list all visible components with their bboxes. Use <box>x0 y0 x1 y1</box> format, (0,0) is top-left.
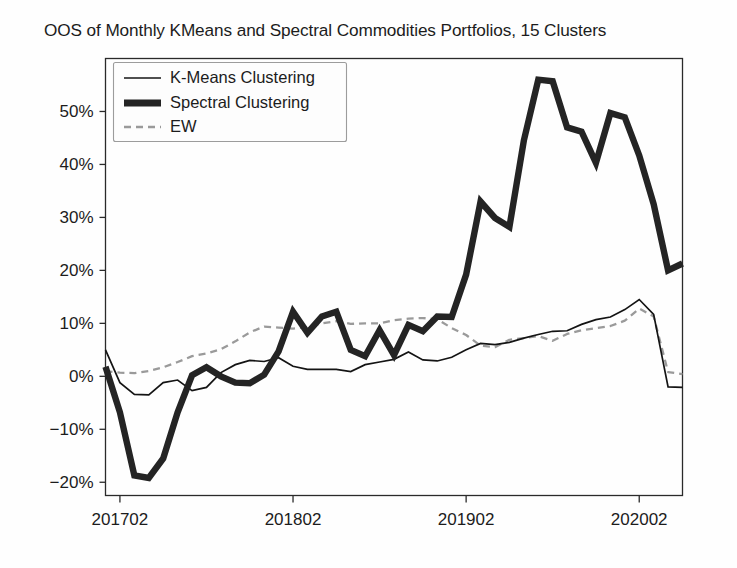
x-tick-label: 201902 <box>438 510 495 529</box>
legend-label-spectral: Spectral Clustering <box>170 93 309 111</box>
y-tick-label: 50% <box>59 102 93 121</box>
x-tick-label: 201802 <box>265 510 322 529</box>
legend-label-ew: EW <box>170 117 197 135</box>
y-tick-label: 30% <box>59 208 93 227</box>
chart-figure: OOS of Monthly KMeans and Spectral Commo… <box>0 0 737 568</box>
y-tick-label: 0% <box>69 367 94 386</box>
y-axis-tick-group: −20%−10%0%10%20%30%40%50% <box>50 102 106 492</box>
line-chart-canvas: −20%−10%0%10%20%30%40%50% 20170220180220… <box>0 0 737 568</box>
y-tick-label: 10% <box>59 314 93 333</box>
y-tick-label: −10% <box>50 420 94 439</box>
y-tick-label: −20% <box>50 473 94 492</box>
x-tick-label: 202002 <box>611 510 668 529</box>
x-axis-tick-group: 201702201802201902202002 <box>92 496 668 529</box>
legend-label-kmeans: K-Means Clustering <box>170 68 315 86</box>
x-tick-label: 201702 <box>92 510 149 529</box>
y-tick-label: 20% <box>59 261 93 280</box>
y-tick-label: 40% <box>59 155 93 174</box>
chart-legend[interactable]: K-Means Clustering Spectral Clustering E… <box>114 63 347 142</box>
series-line-ew <box>106 309 683 375</box>
